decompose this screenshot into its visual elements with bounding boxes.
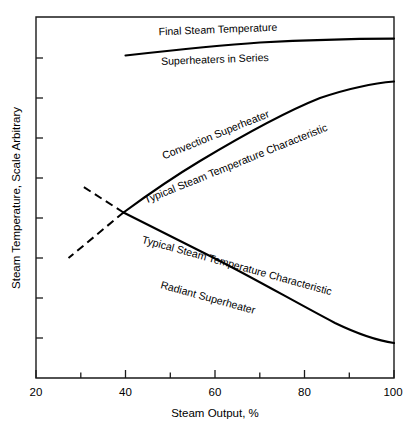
chart-figure: 20 40 60 80 100 Steam Output, % Steam Te…: [0, 0, 417, 426]
x-axis-title: Steam Output, %: [171, 407, 259, 419]
x-tick-label-40: 40: [119, 386, 132, 398]
x-tick-label-60: 60: [209, 386, 222, 398]
x-tick-label-80: 80: [298, 386, 311, 398]
steam-temperature-chart: 20 40 60 80 100 Steam Output, % Steam Te…: [0, 0, 417, 426]
y-axis-title: Steam Temperature, Scale Arbitrary: [10, 107, 22, 289]
x-tick-label-100: 100: [383, 386, 402, 398]
x-tick-label-20: 20: [30, 386, 43, 398]
